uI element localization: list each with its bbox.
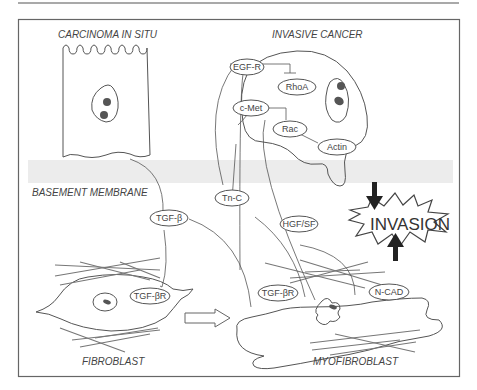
svg-text:N-CAD: N-CAD	[375, 287, 404, 297]
nucleolus	[103, 98, 111, 106]
node-tgfbr-myofibroblast: TGF-βR	[258, 285, 298, 301]
myofibroblast-label: MYOFIBROBLAST	[313, 356, 399, 367]
node-cmet: c-Met	[233, 100, 269, 116]
svg-text:Actin: Actin	[327, 142, 347, 152]
carcinoma-label: CARCINOMA IN SITU	[58, 29, 158, 40]
node-tgfb: TGF-β	[150, 210, 188, 226]
svg-text:c-Met: c-Met	[240, 103, 263, 113]
basement-membrane-band	[28, 160, 453, 183]
node-egfr: EGF-R	[230, 59, 264, 75]
svg-text:Rac: Rac	[282, 124, 299, 134]
svg-text:RhoA: RhoA	[286, 82, 309, 92]
basement-label: BASEMENT MEMBRANE	[32, 187, 148, 198]
node-actin: Actin	[318, 139, 356, 155]
node-ncad: N-CAD	[369, 284, 409, 300]
node-rac: Rac	[273, 121, 307, 137]
nucleolus	[337, 82, 345, 90]
diagram-canvas: INVASION CARCINOMA IN SITU INVASIVE CANC…	[0, 0, 477, 390]
svg-text:TGF-βR: TGF-βR	[262, 288, 295, 298]
svg-text:TGF-β: TGF-β	[156, 213, 182, 223]
svg-text:TGF-βR: TGF-βR	[134, 291, 167, 301]
nucleolus	[100, 111, 108, 119]
node-rhoa: RhoA	[278, 79, 316, 95]
invasive-label: INVASIVE CANCER	[272, 29, 363, 40]
node-hgfsf: HGF/SF	[280, 216, 318, 232]
invasion-label: INVASION	[370, 215, 450, 234]
svg-text:HGF/SF: HGF/SF	[283, 219, 317, 229]
fibroblast-label: FIBROBLAST	[82, 356, 145, 367]
node-tnc: Tn-C	[215, 190, 249, 206]
node-tgfbr-fibroblast: TGF-βR	[130, 288, 170, 304]
svg-text:EGF-R: EGF-R	[233, 62, 261, 72]
svg-text:Tn-C: Tn-C	[222, 193, 243, 203]
